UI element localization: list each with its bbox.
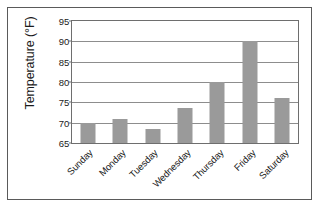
bar[interactable] (81, 123, 96, 143)
bar-series (72, 21, 298, 143)
x-tick-label: Saturday (256, 147, 290, 181)
bar-slot (104, 21, 136, 143)
bar-slot (201, 21, 233, 143)
bar-slot (233, 21, 265, 143)
bar-slot (137, 21, 169, 143)
y-axis-title: Temperature (°F) (23, 8, 37, 118)
bar[interactable] (145, 129, 160, 143)
x-tick-label: Thursday (190, 147, 225, 182)
bar[interactable] (210, 82, 225, 143)
bar-slot (266, 21, 298, 143)
bar-slot (72, 21, 104, 143)
y-tick-label: 70 (59, 117, 69, 128)
plot-area: 65707580859095 (71, 20, 299, 144)
x-axis-labels: SundayMondayTuesdayWednesdayThursdayFrid… (71, 145, 299, 197)
chart-figure-frame: Temperature (°F) 65707580859095 SundayMo… (7, 7, 312, 200)
y-tick-label: 90 (59, 36, 69, 47)
bar[interactable] (113, 119, 128, 143)
y-tick-label: 80 (59, 77, 69, 88)
y-tick-label: 85 (59, 56, 69, 67)
bar[interactable] (242, 41, 257, 143)
x-tick-label: Friday (232, 147, 258, 173)
bar-slot (169, 21, 201, 143)
y-tick-label: 65 (59, 138, 69, 149)
x-tick-label: Sunday (65, 147, 95, 177)
y-tick-label: 75 (59, 97, 69, 108)
bar[interactable] (274, 98, 289, 143)
bar[interactable] (177, 108, 192, 143)
y-tick-label: 95 (59, 16, 69, 27)
x-tick-label: Monday (96, 147, 127, 178)
